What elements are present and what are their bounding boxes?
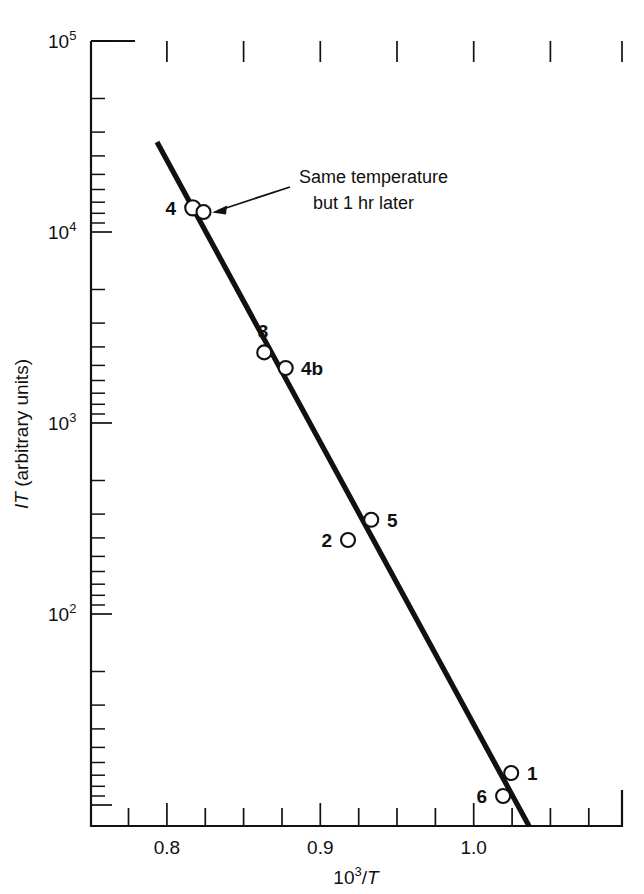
data-point-2 <box>341 533 355 547</box>
annotation-text: Same temperature but 1 hr later <box>299 167 448 213</box>
y-tick-label-1e4: 104 <box>48 219 76 243</box>
data-point-label-2: 2 <box>321 530 332 551</box>
annotation-line-2: but 1 hr later <box>313 193 414 213</box>
y-tick-label-1e3: 103 <box>48 410 76 434</box>
data-point-label-5: 4b <box>301 358 323 379</box>
x-tick-label-0-9: 0.9 <box>307 837 333 858</box>
y-axis-title: IT (arbitrary units) <box>11 359 32 509</box>
top-axis-ticks <box>167 41 622 62</box>
data-point-1 <box>504 766 518 780</box>
x-tick-label-1-0: 1.0 <box>460 837 486 858</box>
annotation-arrow <box>212 187 290 215</box>
data-point-label-7: 6 <box>476 786 487 807</box>
data-point-4b <box>197 205 211 219</box>
data-point-label-3: 3 <box>258 321 269 342</box>
data-point-label-1: 1 <box>527 763 538 784</box>
chart-svg: 105 104 103 102 0.8 0.9 1.0 103/T IT (ar… <box>0 0 644 894</box>
figure-container: 105 104 103 102 0.8 0.9 1.0 103/T IT (ar… <box>0 0 644 894</box>
data-point-label-4: 4 <box>165 198 176 219</box>
data-point-label-6: 5 <box>387 510 398 531</box>
y-axis-tick-labels: 105 104 103 102 <box>48 28 76 625</box>
annotation-line-1: Same temperature <box>299 167 448 187</box>
fit-line <box>157 142 529 826</box>
x-tick-label-0-8: 0.8 <box>154 837 180 858</box>
data-point-5 <box>279 361 293 375</box>
x-axis-title: 103/T <box>333 864 380 888</box>
y-axis-minor-ticks <box>91 99 105 797</box>
y-tick-label-1e5: 105 <box>48 28 76 52</box>
axis-frame <box>91 41 622 826</box>
data-point-6 <box>364 513 378 527</box>
x-axis-tick-labels: 0.8 0.9 1.0 <box>154 837 487 858</box>
y-tick-label-1e2: 102 <box>48 601 76 625</box>
data-point-7 <box>496 789 510 803</box>
data-point-3 <box>257 345 271 359</box>
